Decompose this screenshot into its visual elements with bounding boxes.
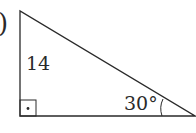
side-length-label: 14 [26, 52, 50, 74]
angle-arc [161, 99, 163, 116]
problem-label-fragment: ) [0, 8, 8, 38]
triangle-diagram: ) 14 30° [0, 0, 196, 133]
right-angle-dot [27, 107, 30, 110]
angle-label: 30° [124, 92, 158, 114]
